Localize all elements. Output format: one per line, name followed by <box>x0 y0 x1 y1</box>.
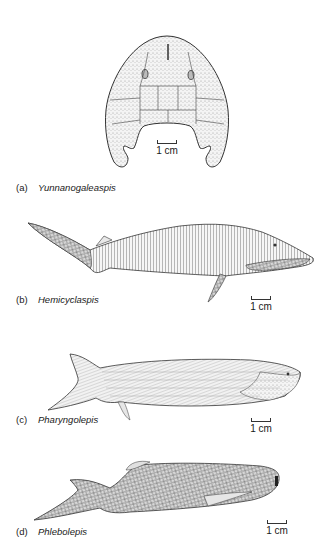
panel-a-scale-bar: 1 cm <box>152 140 182 156</box>
panel-d-caption: (d)Phlebolepis <box>16 526 87 537</box>
figure-jawless-fishes: (a)Yunnanogaleaspis (b)Hemicyclaspis (c)… <box>0 0 323 541</box>
panel-c-tag: (c) <box>16 414 38 425</box>
panel-b-scale-bar: 1 cm <box>246 296 276 312</box>
scale-bar-label: 1 cm <box>250 423 272 434</box>
panel-b-caption: (b)Hemicyclaspis <box>16 294 99 305</box>
pharyngolepis-illustration <box>48 354 300 420</box>
panel-d-species: Phlebolepis <box>38 526 87 537</box>
panel-a-tag: (a) <box>16 182 38 193</box>
panel-c-scale-bar: 1 cm <box>246 418 276 434</box>
panel-c-species: Pharyngolepis <box>38 414 98 425</box>
scale-bar-line <box>267 520 287 524</box>
panel-a-species: Yunnanogaleaspis <box>38 182 116 193</box>
panel-d-tag: (d) <box>16 526 38 537</box>
panel-c-caption: (c)Pharyngolepis <box>16 414 98 425</box>
phlebolepis-illustration <box>34 461 279 520</box>
scale-bar-line <box>157 140 177 144</box>
panel-b-tag: (b) <box>16 294 38 305</box>
panel-d-scale-bar: 1 cm <box>262 520 292 536</box>
scale-bar-label: 1 cm <box>266 525 288 536</box>
panel-b-species: Hemicyclaspis <box>38 294 99 305</box>
scale-bar-line <box>251 296 271 300</box>
panel-a-caption: (a)Yunnanogaleaspis <box>16 182 116 193</box>
hemicyclaspis-illustration <box>28 223 313 302</box>
scale-bar-line <box>251 418 271 422</box>
illustrations <box>0 0 323 541</box>
scale-bar-label: 1 cm <box>250 301 272 312</box>
scale-bar-label: 1 cm <box>156 145 178 156</box>
